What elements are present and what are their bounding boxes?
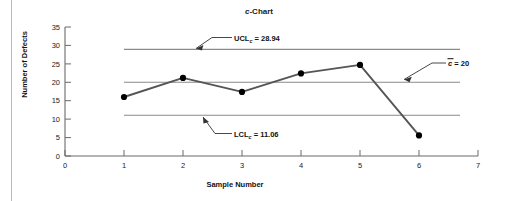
- ucl-annotation-label: UCLc = 28.94: [234, 34, 281, 44]
- x-tick-label: 7: [476, 161, 480, 170]
- y-tick-labels: 0 5 10 15 20 25 30 35: [52, 23, 60, 161]
- x-tick-label: 4: [299, 161, 303, 170]
- lcl-annotation: LCLc = 11.06: [203, 117, 279, 140]
- data-point-3: [239, 89, 245, 95]
- x-tick-marks: [65, 150, 478, 156]
- x-tick-labels: 0 1 2 3 4 5 6 7: [63, 161, 480, 170]
- x-tick-label: 6: [417, 161, 421, 170]
- data-point-5: [357, 62, 363, 68]
- data-point-2: [180, 75, 186, 81]
- cbar-leader-line: [404, 63, 446, 80]
- lcl-arrowhead: [203, 117, 209, 123]
- cbar-annotation-label: c = 20: [448, 59, 469, 68]
- x-tick-label: 5: [358, 161, 362, 170]
- y-tick-label: 10: [52, 115, 60, 124]
- data-point-4: [298, 70, 304, 76]
- y-tick-label: 30: [52, 41, 60, 50]
- x-tick-label: 0: [63, 161, 67, 170]
- data-series-line: [124, 65, 419, 135]
- x-tick-label: 3: [240, 161, 244, 170]
- y-tick-label: 25: [52, 60, 60, 69]
- cbar-annotation: c = 20: [404, 59, 469, 82]
- data-point-markers: [121, 62, 422, 139]
- x-tick-label: 1: [122, 161, 126, 170]
- x-tick-label: 2: [181, 161, 185, 170]
- c-chart-figure: c-Chart Number of Defects Sample Number …: [0, 0, 518, 201]
- y-tick-label: 35: [52, 23, 60, 32]
- y-tick-label: 0: [56, 152, 60, 161]
- y-tick-label: 20: [52, 78, 60, 87]
- lcl-leader-line: [203, 117, 232, 134]
- y-tick-label: 15: [52, 96, 60, 105]
- plot-area: 0 5 10 15 20 25 30 35 0 1 2 3 4 5: [0, 0, 518, 201]
- lcl-annotation-label: LCLc = 11.06: [234, 130, 279, 140]
- data-point-1: [121, 94, 127, 100]
- y-tick-marks: [65, 27, 71, 156]
- data-point-6: [416, 132, 422, 138]
- ucl-annotation: UCLc = 28.94: [196, 34, 281, 51]
- y-tick-label: 5: [56, 133, 60, 142]
